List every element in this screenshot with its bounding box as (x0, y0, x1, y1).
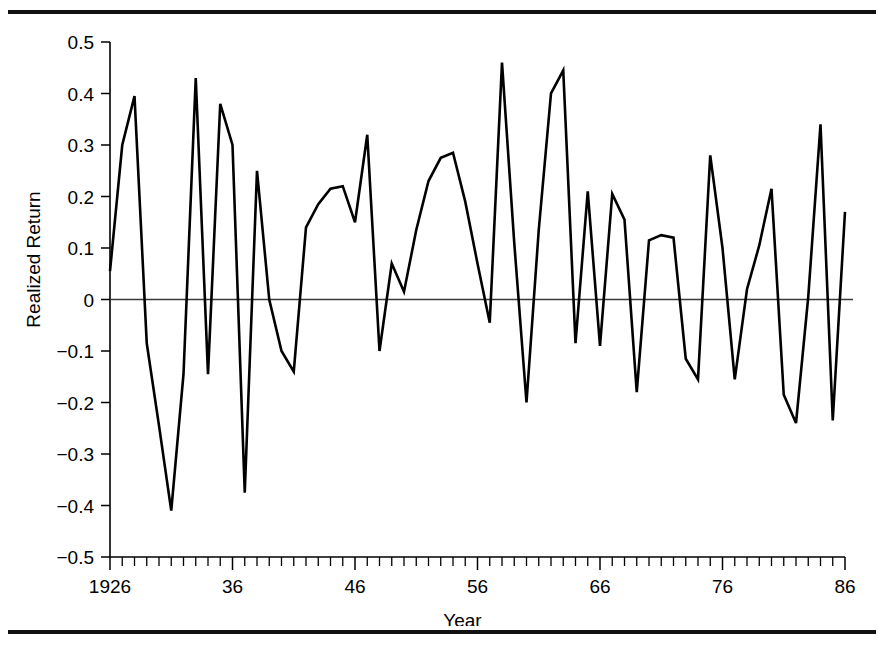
realized-return-series (110, 63, 845, 511)
x-tick-label: 76 (712, 576, 733, 597)
y-tick-label: 0 (83, 290, 94, 311)
figure-container: 0.50.40.30.20.10−0.1−0.2−0.3−0.4−0.5 192… (0, 0, 884, 645)
y-tick-label: −0.5 (56, 547, 94, 568)
bottom-divider-rule (8, 630, 876, 634)
x-tick-label: 56 (467, 576, 488, 597)
y-tick-label: 0.4 (68, 84, 95, 105)
x-tick-label: 86 (834, 576, 855, 597)
x-tick-label: 66 (589, 576, 610, 597)
y-axis-title: Realized Return (23, 191, 44, 327)
y-tick-label: 0.3 (68, 135, 94, 156)
x-tick-label: 36 (222, 576, 243, 597)
y-tick-label: 0.1 (68, 238, 94, 259)
x-tick-label: 46 (344, 576, 365, 597)
y-tick-label: 0.5 (68, 32, 94, 53)
y-tick-label: −0.4 (56, 496, 94, 517)
return-line-chart: 0.50.40.30.20.10−0.1−0.2−0.3−0.4−0.5 192… (0, 14, 884, 626)
x-axis-tick-labels: 1926364656667686 (89, 576, 856, 597)
x-axis-title: Year (443, 610, 482, 626)
y-tick-label: −0.3 (56, 444, 94, 465)
y-tick-label: −0.2 (56, 393, 94, 414)
y-axis-ticks (101, 42, 110, 557)
x-axis-minor-ticks (110, 557, 845, 570)
y-tick-label: 0.2 (68, 187, 94, 208)
y-tick-label: −0.1 (56, 341, 94, 362)
x-tick-label: 1926 (89, 576, 131, 597)
y-axis-tick-labels: 0.50.40.30.20.10−0.1−0.2−0.3−0.4−0.5 (56, 32, 94, 568)
